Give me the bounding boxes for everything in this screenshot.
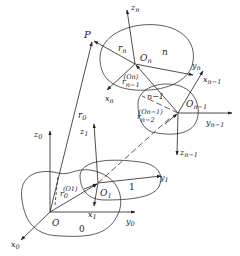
body-n-label: n	[162, 47, 168, 57]
rn1-On-label: rn−1(On)	[122, 73, 140, 89]
body-0-label: 0	[79, 224, 85, 234]
zn1-axis	[177, 113, 178, 155]
rn2-vector	[165, 114, 177, 124]
zn1-label: zn−1	[179, 148, 198, 159]
yn1-label: yn−1	[205, 118, 224, 129]
zn-axis	[127, 10, 135, 64]
x1-axis	[94, 183, 98, 206]
rn1-On-vector	[136, 65, 178, 113]
rn-label: rn	[118, 43, 127, 55]
zn-label: zn	[130, 3, 139, 14]
body-0-outline	[21, 170, 120, 237]
z1-label: z1	[79, 127, 88, 138]
xn1-label: xn−1	[203, 75, 221, 86]
xn-label: xn	[105, 94, 114, 105]
x0-label: x0	[11, 240, 20, 251]
z0-label: z0	[33, 130, 42, 141]
yn-label: yn	[191, 61, 201, 72]
body-1-outline	[80, 160, 161, 200]
body-1-label: 1	[129, 182, 135, 192]
origin-O1-label: O1	[100, 188, 112, 200]
x0-axis	[21, 212, 50, 240]
rn2-On1-label: rn−2(On−1)	[137, 108, 163, 124]
point-P-label: P	[83, 29, 91, 40]
z1-axis	[94, 124, 98, 183]
diagram-canvas: P r0 rn O O1 On−1 On 0 1 n−1 n z0 y0 x0 …	[0, 0, 240, 256]
y0-label: y0	[125, 217, 135, 228]
r0-O1-label: r0(O1)	[60, 185, 78, 200]
body-n-1-label: n−1	[147, 92, 164, 101]
origin-On-label: On	[140, 53, 152, 65]
r0-label: r0	[78, 110, 86, 122]
origin-O-label: O	[52, 218, 60, 228]
